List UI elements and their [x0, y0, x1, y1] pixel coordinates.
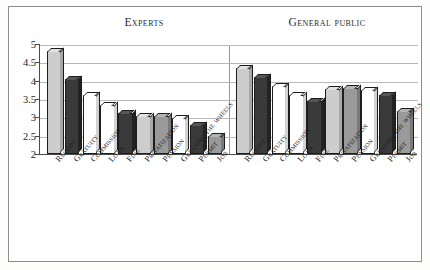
bar-side-face [357, 85, 361, 153]
bar-side-face [392, 91, 396, 153]
gridline [40, 45, 418, 46]
y-tick-label: 2 [31, 149, 36, 160]
gridline [40, 82, 418, 83]
bar-side-face [78, 75, 82, 153]
chart-frame: Experts General public 22.533.544.55 Rec… [8, 6, 422, 262]
bar-side-face [374, 86, 378, 153]
y-tick-label: 2.5 [23, 131, 36, 142]
bar [325, 89, 339, 154]
gridline [40, 63, 418, 64]
chart-page: Experts General public 22.533.544.55 Rec… [0, 0, 430, 270]
bar [236, 68, 250, 154]
y-tick-label: 3.5 [23, 94, 36, 105]
bar-side-face [321, 97, 325, 153]
bar-side-face [339, 85, 343, 153]
y-tick-label: 3 [31, 113, 36, 124]
panel-title-general-public: General public [247, 16, 407, 28]
y-tick-label: 5 [31, 39, 36, 50]
y-tick-label: 4 [31, 76, 36, 87]
bar-side-face [267, 74, 271, 153]
bar [47, 51, 61, 154]
y-tick-label: 4.5 [23, 58, 36, 69]
panel-title-experts: Experts [69, 16, 219, 28]
bar-side-face [60, 48, 64, 153]
